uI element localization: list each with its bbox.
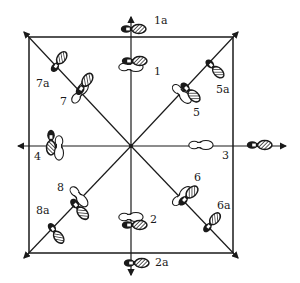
label-1a: 1a	[154, 15, 168, 26]
label-2a: 2a	[155, 257, 169, 268]
foot-position-1a	[121, 25, 146, 34]
label-6: 6	[194, 172, 201, 183]
label-3: 3	[222, 150, 229, 161]
label-1: 1	[154, 66, 161, 77]
label-7: 7	[60, 96, 67, 107]
label-8: 8	[57, 182, 64, 193]
label-5a: 5a	[216, 84, 230, 95]
label-5: 5	[193, 107, 200, 118]
foot-position-2a	[124, 259, 149, 268]
label-6a: 6a	[217, 200, 231, 211]
label-2: 2	[150, 214, 157, 225]
label-8a: 8a	[36, 205, 50, 216]
diagram-canvas	[0, 0, 300, 283]
label-7a: 7a	[36, 78, 50, 89]
foot-positions-diagram: 1a 1 2 2a 3 4 5 5a 6 6a 7 7a 8 8a	[0, 0, 300, 283]
foot-position-3a	[247, 141, 272, 150]
foot-position-5a	[203, 57, 226, 80]
label-4: 4	[34, 151, 41, 162]
foot-position-3	[189, 141, 213, 150]
